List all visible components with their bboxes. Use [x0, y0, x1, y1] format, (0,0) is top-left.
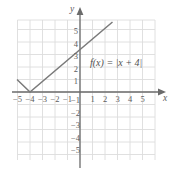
function-equation-label: f(x) = |x + 4|: [90, 58, 142, 68]
x-tick-label-4: 4: [125, 95, 136, 104]
x-axis-label: x: [163, 94, 167, 104]
graph-canvas: [0, 0, 173, 172]
x-tick-label--2: −2: [49, 95, 62, 104]
x-tick-label-3: 3: [112, 95, 123, 104]
y-axis-label: y: [70, 5, 74, 15]
x-tick-label--3: −3: [36, 95, 49, 104]
x-tick-label-2: 2: [100, 95, 111, 104]
graph-figure: −5 −4 −3 −2 −1 1 2 3 4 5 5 4 3 2 1 −1 −2…: [0, 0, 173, 172]
y-tick-label--4: −4: [68, 134, 80, 143]
y-tick-label--5: −5: [68, 146, 80, 155]
x-tick-label--4: −4: [24, 95, 37, 104]
grid-lines-horizontal: [18, 20, 156, 155]
y-tick-label--1: −1: [68, 96, 80, 105]
y-tick-label--2: −2: [68, 109, 80, 118]
y-tick-label-3: 3: [66, 52, 78, 61]
x-tick-label--5: −5: [11, 95, 24, 104]
y-tick-label-2: 2: [66, 65, 78, 74]
x-tick-label-1: 1: [87, 95, 98, 104]
y-axis-arrow-icon: [77, 7, 84, 15]
y-tick-label--3: −3: [68, 121, 80, 130]
y-tick-label-4: 4: [66, 40, 78, 49]
x-tick-label-5: 5: [137, 95, 148, 104]
y-tick-label-1: 1: [66, 77, 78, 86]
y-tick-label-5: 5: [66, 27, 78, 36]
grid-lines-vertical: [18, 20, 156, 160]
